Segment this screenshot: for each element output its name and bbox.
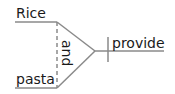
subject-rice: Rice (16, 5, 46, 21)
conjunction-and: and (59, 40, 75, 66)
sentence-diagram: Rice pasta provide and (0, 0, 175, 94)
predicate-provide: provide (112, 35, 165, 51)
subject-pasta: pasta (16, 71, 55, 87)
